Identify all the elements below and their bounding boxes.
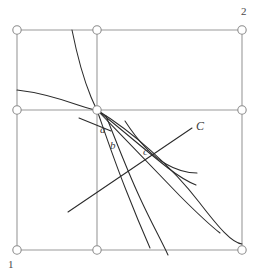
node-bottom-middle — [93, 246, 101, 254]
steep-declining-curve — [72, 30, 97, 110]
node-top-middle — [93, 26, 101, 34]
curve-label-b: b — [110, 140, 116, 151]
node-middle-left — [13, 106, 21, 114]
offer-curve-C — [125, 121, 197, 173]
node-center — [93, 106, 101, 114]
curve-label-C-upper: C — [196, 120, 204, 132]
corner-label-2: 2 — [241, 6, 247, 17]
diagram-svg — [0, 0, 261, 280]
figure-canvas: 1 2 a b c C — [0, 0, 261, 280]
curve-label-a: a — [100, 124, 106, 135]
node-middle-right — [238, 106, 246, 114]
curve-label-c: c — [143, 146, 148, 157]
node-bottom-right — [238, 246, 246, 254]
curves-group — [17, 30, 242, 255]
corner-label-1: 1 — [8, 259, 14, 270]
indifference-curve-b2 — [106, 116, 168, 255]
node-top-left — [13, 26, 21, 34]
grid-nodes — [13, 26, 246, 254]
node-top-right — [238, 26, 246, 34]
node-bottom-left — [13, 246, 21, 254]
grid-lines — [17, 30, 242, 250]
flat-left-curve — [17, 90, 97, 110]
